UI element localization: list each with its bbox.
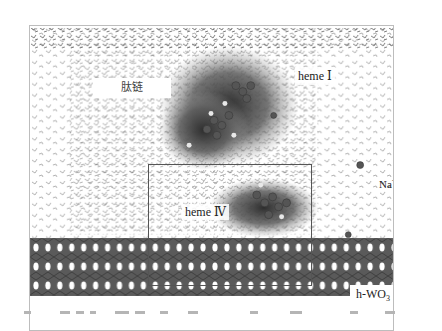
heme-1-label: heme Ⅰ: [295, 67, 335, 85]
substrate-subscript: 3: [386, 294, 390, 303]
heme-iv-highlight-box: [148, 164, 312, 286]
sodium-symbol: Na: [379, 178, 392, 190]
substrate-label: h-WO3: [350, 285, 394, 308]
sodium-ion-label: Na+: [375, 173, 394, 192]
figure-caption-cutoff: [20, 309, 420, 314]
sodium-charge: +: [392, 176, 394, 185]
peptide-chain-label: 肽链: [93, 78, 171, 98]
simulation-snapshot: 肽链 heme Ⅰ heme Ⅳ Na+ h-WO3: [29, 25, 394, 331]
heme-4-label: heme Ⅳ: [182, 204, 229, 220]
substrate-prefix: h-WO: [356, 287, 386, 301]
